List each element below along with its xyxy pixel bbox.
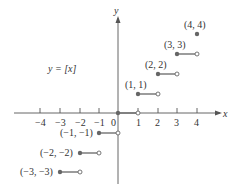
point-label: (1, 1) [125, 79, 147, 91]
open-dot-icon [97, 151, 101, 155]
function-label: y = [x] [47, 63, 77, 74]
point-label: (−1, −1) [60, 127, 93, 139]
tick-label: −1 [94, 117, 105, 128]
axes [14, 18, 220, 184]
closed-dot-icon [116, 111, 120, 115]
point-labels: (−3, −3) (−2, −2) (−1, −1) (1, 1) (2, 2)… [20, 19, 206, 178]
point-label: (4, 4) [184, 19, 206, 31]
tick-label: −4 [35, 117, 46, 128]
open-dot-icon [116, 131, 120, 135]
closed-dot-icon [58, 170, 62, 174]
point-label: (−2, −2) [40, 147, 73, 159]
y-axis-arrow-icon [116, 16, 121, 23]
open-dot-icon [156, 92, 160, 96]
closed-points [58, 32, 199, 174]
floor-function-graph: x y −4 −3 −2 −1 0 1 2 3 4 y = [x] [0, 0, 237, 190]
open-dot-icon [136, 111, 140, 115]
closed-dot-icon [78, 151, 82, 155]
closed-dot-icon [97, 131, 101, 135]
closed-dot-icon [156, 72, 160, 76]
point-label: (−3, −3) [20, 166, 53, 178]
point-label: (3, 3) [164, 39, 186, 51]
point-label: (2, 2) [145, 59, 167, 71]
tick-label: 2 [155, 117, 160, 128]
tick-label: 4 [194, 117, 199, 128]
closed-dot-icon [136, 92, 140, 96]
tick-label: 0 [111, 117, 116, 128]
graph-canvas: x y −4 −3 −2 −1 0 1 2 3 4 y = [x] [0, 0, 237, 190]
open-dot-icon [175, 72, 179, 76]
x-axis-arrow-icon [215, 111, 222, 116]
y-axis-label: y [113, 5, 119, 16]
open-dot-icon [78, 170, 82, 174]
tick-label: 3 [174, 117, 179, 128]
open-dot-icon [195, 52, 199, 56]
x-axis-label: x [222, 108, 228, 119]
closed-dot-icon [195, 32, 199, 36]
tick-label: 1 [136, 117, 141, 128]
closed-dot-icon [175, 52, 179, 56]
